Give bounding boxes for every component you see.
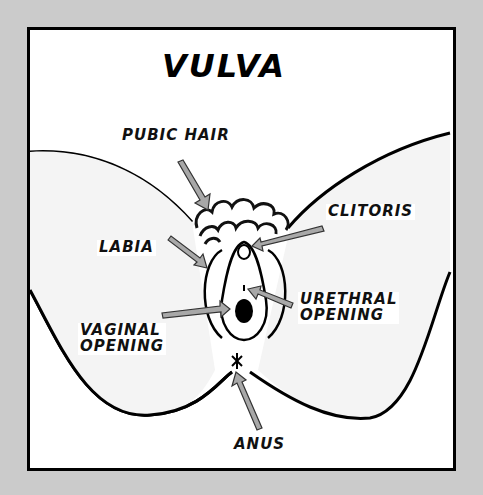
- anus-mark: [232, 353, 242, 369]
- anus-arrow: [232, 372, 262, 430]
- diagram-title: VULVA: [160, 50, 288, 84]
- label-clitoris: CLITORIS: [326, 204, 415, 220]
- pubic-hair-shape: [196, 200, 288, 244]
- label-pubic-hair: PUBIC HAIR: [120, 128, 232, 144]
- right-thigh-fill: [258, 133, 450, 418]
- label-labia: LABIA: [97, 240, 156, 256]
- pubic-hair-arrow: [178, 160, 210, 210]
- lower-left-fill: [30, 152, 215, 416]
- label-anus: ANUS: [232, 437, 287, 453]
- label-urethral-opening: URETHRAL OPENING: [298, 292, 399, 324]
- urethral-opening-mark: [243, 285, 245, 291]
- vaginal-opening-shape: [235, 299, 253, 323]
- label-vaginal-opening: VAGINAL OPENING: [78, 323, 166, 355]
- label-urethral-line2: OPENING: [300, 308, 397, 324]
- clitoris-shape: [238, 245, 250, 259]
- label-vaginal-line2: OPENING: [80, 339, 164, 355]
